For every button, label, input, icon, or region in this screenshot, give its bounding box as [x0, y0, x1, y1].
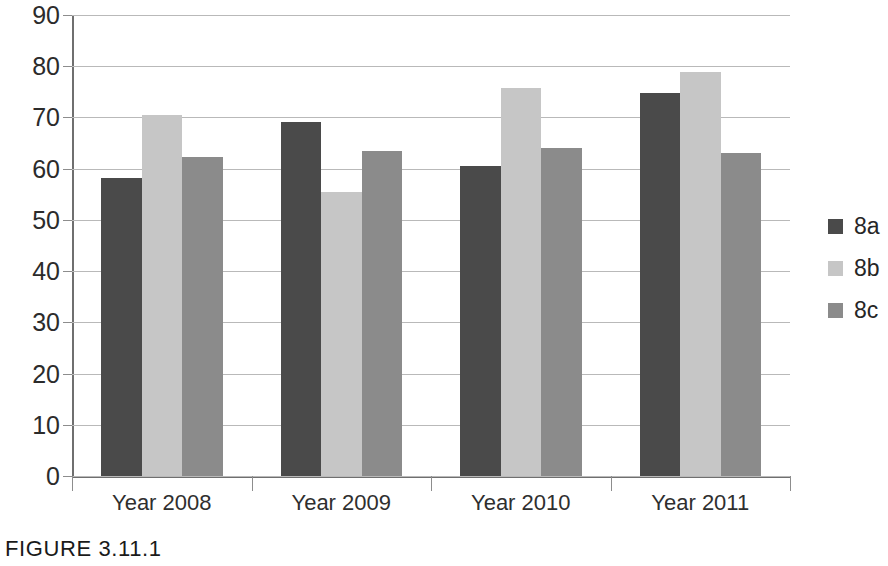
y-axis-tick-label: 0	[46, 464, 60, 489]
y-axis-tick-mark	[63, 66, 72, 67]
y-axis-tick-mark	[63, 169, 72, 170]
gridline	[72, 66, 790, 67]
y-axis-tick-label: 30	[32, 310, 60, 335]
y-axis-tick-mark	[63, 220, 72, 221]
y-axis-tick-mark	[63, 476, 72, 477]
bar-8a-year-2011	[640, 93, 681, 476]
x-axis-tick-mark	[252, 476, 253, 491]
bar-8b-year-2009	[321, 192, 362, 476]
x-axis-tick-mark	[72, 476, 73, 491]
bar-8c-year-2010	[541, 148, 582, 476]
legend-label: 8b	[854, 257, 880, 280]
y-axis-tick-label: 60	[32, 156, 60, 181]
y-axis-tick-label: 20	[32, 361, 60, 386]
x-axis-tick-label: Year 2008	[112, 492, 212, 514]
legend-label: 8a	[854, 215, 880, 238]
bar-8b-year-2011	[680, 72, 721, 476]
y-axis-tick-label: 50	[32, 207, 60, 232]
x-axis-tick-mark	[431, 476, 432, 491]
legend-item-8b: 8b	[828, 247, 888, 289]
legend-swatch-icon	[828, 261, 843, 276]
y-axis-tick-label: 10	[32, 412, 60, 437]
bar-8a-year-2010	[460, 166, 501, 476]
y-axis-tick-mark	[63, 322, 72, 323]
y-axis-tick-label: 40	[32, 259, 60, 284]
bar-8c-year-2011	[721, 153, 762, 476]
plot-area: 0102030405060708090	[72, 15, 790, 476]
chart-legend: 8a8b8c	[828, 205, 888, 331]
y-axis-tick-mark	[63, 15, 72, 16]
gridline	[72, 15, 790, 16]
y-axis-tick-label: 90	[32, 3, 60, 28]
bar-chart: 0102030405060708090 Year 2008Year 2009Ye…	[0, 0, 888, 528]
y-axis-tick-mark	[63, 374, 72, 375]
x-axis-tick-mark	[790, 476, 791, 491]
y-axis-tick-mark	[63, 271, 72, 272]
figure-caption: FIGURE 3.11.1	[5, 536, 162, 562]
bar-8b-year-2008	[142, 115, 183, 476]
legend-item-8c: 8c	[828, 289, 888, 331]
legend-item-8a: 8a	[828, 205, 888, 247]
legend-label: 8c	[854, 299, 878, 322]
x-axis-tick-label: Year 2009	[291, 492, 391, 514]
bar-8a-year-2009	[281, 122, 322, 476]
y-axis-tick-mark	[63, 117, 72, 118]
bar-8c-year-2009	[362, 151, 403, 476]
bar-8a-year-2008	[101, 178, 142, 476]
y-axis-tick-label: 70	[32, 105, 60, 130]
bar-8c-year-2008	[182, 157, 223, 476]
y-axis-tick-mark	[63, 425, 72, 426]
x-axis-tick-label: Year 2011	[651, 492, 749, 514]
figure-container: 0102030405060708090 Year 2008Year 2009Ye…	[0, 0, 888, 566]
y-axis-tick-label: 80	[32, 54, 60, 79]
legend-swatch-icon	[828, 219, 843, 234]
x-axis-tick-mark	[611, 476, 612, 491]
legend-swatch-icon	[828, 303, 843, 318]
bar-8b-year-2010	[501, 88, 542, 476]
x-axis-tick-label: Year 2010	[471, 492, 571, 514]
